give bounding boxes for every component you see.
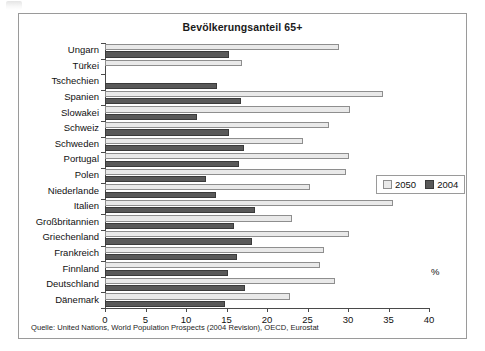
chart-title: Bevölkerungsanteil 65+ xyxy=(19,21,466,33)
bar-2050 xyxy=(105,231,349,237)
x-axis-tick-label: 30 xyxy=(343,314,354,325)
bar-2004 xyxy=(105,207,255,213)
chart-row: Slowakei xyxy=(105,105,429,121)
bar-2050 xyxy=(105,91,383,97)
legend-label-2004: 2004 xyxy=(437,179,458,190)
category-label: Schweiz xyxy=(64,122,99,133)
category-label: Griechenland xyxy=(42,231,99,242)
bar-2050 xyxy=(105,200,393,206)
x-axis-tick xyxy=(429,308,430,312)
chart-row: Türkei xyxy=(105,59,429,75)
bar-2004 xyxy=(105,285,245,291)
bar-2004 xyxy=(105,83,217,89)
x-axis-tick xyxy=(227,308,228,312)
x-axis-tick xyxy=(389,308,390,312)
chart-row: Dänemark xyxy=(105,292,429,308)
category-label: Türkei xyxy=(73,60,99,71)
chart-legend: 2050 2004 xyxy=(376,175,465,194)
bar-2050 xyxy=(105,293,290,299)
bar-2004 xyxy=(105,114,197,120)
category-label: Tschechien xyxy=(51,75,99,86)
bar-2050 xyxy=(105,169,346,175)
chart-row: Schweden xyxy=(105,137,429,153)
chart-figure: Bevölkerungsanteil 65+ UngarnTürkeiTsche… xyxy=(18,13,467,339)
bar-2004 xyxy=(105,254,237,260)
category-label: Deutschland xyxy=(46,278,99,289)
bar-2050 xyxy=(105,138,303,144)
bar-2050 xyxy=(105,278,335,284)
chart-row: Großbritannien xyxy=(105,214,429,230)
bar-2004 xyxy=(105,192,216,198)
bar-2004 xyxy=(105,98,241,104)
legend-swatch-2050 xyxy=(383,180,392,189)
x-axis-tick xyxy=(348,308,349,312)
category-label: Frankreich xyxy=(54,247,99,258)
bar-2050 xyxy=(105,262,320,268)
bar-2004 xyxy=(105,129,229,135)
category-label: Schweden xyxy=(55,138,99,149)
chart-row: Deutschland xyxy=(105,277,429,293)
category-label: Polen xyxy=(75,169,99,180)
x-axis-tick-label: 35 xyxy=(383,314,394,325)
bar-2004 xyxy=(105,223,234,229)
category-label: Spanien xyxy=(64,91,99,102)
chart-row: Portugal xyxy=(105,152,429,168)
bar-2050 xyxy=(105,122,329,128)
bar-2004 xyxy=(105,161,239,167)
bar-2050 xyxy=(105,184,310,190)
x-axis-unit-label: % xyxy=(431,266,439,277)
bar-2004 xyxy=(105,238,252,244)
source-note: Quelle: United Nations, World Population… xyxy=(31,323,319,332)
bar-2050 xyxy=(105,153,349,159)
chart-row: Finnland xyxy=(105,261,429,277)
bar-2004 xyxy=(105,176,206,182)
bar-2050 xyxy=(105,60,242,66)
bar-2050 xyxy=(105,44,339,50)
bar-2004 xyxy=(105,145,244,151)
chart-row: Tschechien xyxy=(105,74,429,90)
x-axis-tick xyxy=(146,308,147,312)
y-axis-tick xyxy=(101,74,105,75)
bar-2004 xyxy=(105,51,229,57)
category-label: Slowakei xyxy=(61,107,99,118)
legend-item-2004: 2004 xyxy=(425,179,458,190)
category-label: Dänemark xyxy=(55,294,99,305)
category-label: Ungarn xyxy=(68,44,99,55)
bar-2050 xyxy=(105,247,324,253)
x-axis-tick xyxy=(267,308,268,312)
x-axis-tick xyxy=(308,308,309,312)
category-label: Portugal xyxy=(64,153,99,164)
legend-item-2050: 2050 xyxy=(383,179,416,190)
x-axis-tick-label: 40 xyxy=(424,314,435,325)
bar-2050 xyxy=(105,215,292,221)
chart-row: Frankreich xyxy=(105,246,429,262)
chart-row: Italien xyxy=(105,199,429,215)
bar-2004 xyxy=(105,301,225,307)
category-label: Finnland xyxy=(63,263,99,274)
chart-row: Schweiz xyxy=(105,121,429,137)
category-label: Italien xyxy=(74,200,99,211)
x-axis-tick xyxy=(105,308,106,312)
category-label: Niederlande xyxy=(48,185,99,196)
scan-artifact xyxy=(6,1,22,10)
chart-row: Spanien xyxy=(105,90,429,106)
chart-row: Griechenland xyxy=(105,230,429,246)
legend-swatch-2004 xyxy=(425,180,434,189)
bar-2004 xyxy=(105,270,228,276)
x-axis-tick xyxy=(186,308,187,312)
legend-label-2050: 2050 xyxy=(395,179,416,190)
chart-row: Ungarn xyxy=(105,43,429,59)
category-label: Großbritannien xyxy=(36,216,99,227)
bar-2050 xyxy=(105,106,350,112)
